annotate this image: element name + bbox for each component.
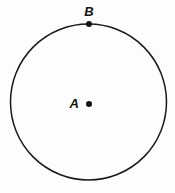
geometry-figure: A B — [0, 0, 175, 193]
point-b-dot — [86, 21, 92, 27]
point-a-label: A — [69, 96, 79, 111]
point-b-label: B — [84, 4, 93, 19]
circle-diagram-canvas: A B — [0, 0, 175, 193]
point-a-dot — [86, 101, 92, 107]
